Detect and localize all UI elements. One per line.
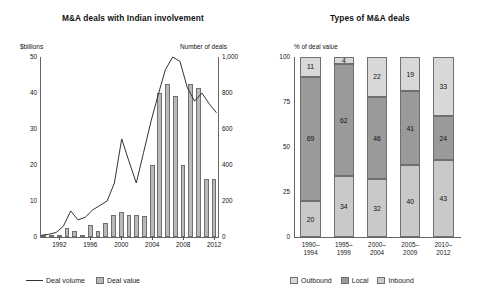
x-category-line1: 1995– — [328, 241, 360, 249]
y-axis-caption-right: Number of deals — [180, 43, 227, 50]
x-tick-2004: 2004 — [139, 241, 165, 248]
segment-value-label: 69 — [307, 135, 315, 142]
y-tick-left-30: 30 — [18, 125, 37, 132]
y-axis-caption-right-chart: % of deal value — [294, 43, 338, 50]
segment-outbound-2: 22 — [367, 57, 388, 97]
x-category-line1: 2000– — [361, 241, 393, 249]
x-category-line2: 2009 — [394, 249, 426, 257]
segment-value-label: 40 — [406, 198, 414, 205]
y-tick-pct-50: 50 — [270, 143, 290, 150]
y-tick-left-50: 50 — [18, 53, 37, 60]
segment-value-label: 19 — [406, 71, 414, 78]
segment-inbound-1: 34 — [334, 176, 355, 237]
y-tick-left-0: 0 — [18, 233, 37, 240]
x-axis-line-left — [40, 237, 219, 238]
x-tick-2008: 2008 — [170, 241, 196, 248]
chart-title-right: Types of M&A deals — [330, 13, 410, 23]
line-series-deal-volume — [40, 57, 218, 237]
segment-value-label: 34 — [340, 203, 348, 210]
swatch-icon-inbound — [377, 277, 385, 284]
y-tick-right-1000: 1,000 — [222, 53, 238, 60]
swatch-icon-local — [341, 277, 349, 284]
y-tick-right-200: 200 — [222, 197, 233, 204]
x-tick-mark-2008 — [183, 237, 184, 240]
segment-inbound-3: 40 — [400, 165, 421, 237]
y-tick-right-800: 800 — [222, 89, 233, 96]
legend-label-local: Local — [352, 277, 369, 284]
segment-outbound-3: 19 — [400, 57, 421, 91]
swatch-icon-deal-value — [96, 277, 104, 284]
segment-local-3: 41 — [400, 91, 421, 165]
chart-panel-right: Types of M&A deals % of deal value 02550… — [262, 0, 493, 303]
legend-item-deal-volume: Deal volume — [26, 277, 85, 284]
chart-title-left: M&A deals with Indian involvement — [62, 13, 204, 23]
x-category-line2: 1994 — [295, 249, 327, 257]
x-category-line1: 2005– — [394, 241, 426, 249]
x-tick-mark-1996 — [90, 237, 91, 240]
x-category-label-3: 2005–2009 — [394, 241, 426, 257]
legend-left: Deal volume Deal value — [26, 277, 140, 284]
legend-label-deal-value: Deal value — [107, 277, 140, 284]
legend-item-inbound: Inbound — [377, 277, 413, 284]
x-category-line1: 1990– — [295, 241, 327, 249]
x-category-line2: 1999 — [328, 249, 360, 257]
x-axis-line-right-chart — [294, 237, 461, 238]
swatch-icon-outbound — [290, 277, 298, 284]
x-tick-1992: 1992 — [46, 241, 72, 248]
plot-area-left — [40, 57, 218, 237]
x-tick-mark-2000 — [121, 237, 122, 240]
stacked-bar-4: 432433 — [433, 57, 454, 237]
x-category-line2: 2012 — [427, 249, 459, 257]
x-category-line1: 2010– — [427, 241, 459, 249]
segment-inbound-4: 43 — [433, 160, 454, 237]
segment-value-label: 32 — [373, 205, 381, 212]
x-category-label-0: 1990–1994 — [295, 241, 327, 257]
segment-outbound-4: 33 — [433, 57, 454, 116]
y-tick-right-400: 400 — [222, 161, 233, 168]
y-tick-left-40: 40 — [18, 89, 37, 96]
segment-value-label: 41 — [406, 125, 414, 132]
stacked-bar-3: 404119 — [400, 57, 421, 237]
stacked-bar-0: 206911 — [300, 57, 321, 237]
segment-local-2: 46 — [367, 97, 388, 180]
x-tick-mark-1992 — [59, 237, 60, 240]
y-tick-left-20: 20 — [18, 161, 37, 168]
segment-local-4: 24 — [433, 116, 454, 159]
y-tick-left-10: 10 — [18, 197, 37, 204]
x-category-label-2: 2000–2004 — [361, 241, 393, 257]
x-tick-mark-2012 — [214, 237, 215, 240]
legend-item-outbound: Outbound — [290, 277, 332, 284]
segment-inbound-2: 32 — [367, 179, 388, 237]
segment-value-label: 33 — [440, 83, 448, 90]
y-tick-right-600: 600 — [222, 125, 233, 132]
segment-value-label: 43 — [440, 195, 448, 202]
segment-value-label: 20 — [307, 216, 315, 223]
y-tick-pct-0: 0 — [270, 233, 290, 240]
segment-value-label: 62 — [340, 117, 348, 124]
y-axis-caption-left: $billions — [20, 43, 43, 50]
segment-outbound-1: 4 — [334, 57, 355, 64]
segment-local-0: 69 — [300, 77, 321, 201]
legend-label-deal-volume: Deal volume — [46, 277, 85, 284]
stacked-bar-2: 324622 — [367, 57, 388, 237]
x-tick-1996: 1996 — [77, 241, 103, 248]
x-category-line2: 2004 — [361, 249, 393, 257]
y-axis-right-line — [218, 57, 219, 238]
plot-area-right: 20691134624324622404119432433 — [294, 57, 460, 237]
segment-outbound-0: 11 — [300, 57, 321, 77]
chart-panel-left: M&A deals with Indian involvement $billi… — [0, 0, 262, 303]
y-tick-right-0: 0 — [222, 233, 226, 240]
y-tick-pct-75: 75 — [270, 98, 290, 105]
segment-value-label: 4 — [342, 57, 346, 64]
segment-value-label: 24 — [440, 135, 448, 142]
legend-item-deal-value: Deal value — [96, 277, 140, 284]
x-category-label-4: 2010–2012 — [427, 241, 459, 257]
x-category-label-1: 1995–1999 — [328, 241, 360, 257]
figure-root: M&A deals with Indian involvement $billi… — [0, 0, 493, 303]
segment-local-1: 62 — [334, 64, 355, 176]
x-tick-mark-2004 — [152, 237, 153, 240]
legend-label-outbound: Outbound — [301, 277, 332, 284]
stacked-bar-1: 34624 — [334, 57, 355, 237]
segment-value-label: 11 — [307, 63, 314, 70]
y-tick-pct-25: 25 — [270, 188, 290, 195]
